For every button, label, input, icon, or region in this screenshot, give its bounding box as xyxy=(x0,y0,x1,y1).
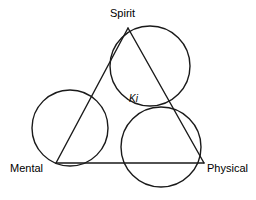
circle-spirit-mental xyxy=(32,90,108,166)
vertex-label-spirit: Spirit xyxy=(110,7,135,19)
edge-spirit-mental xyxy=(56,28,128,163)
vertex-label-mental: Mental xyxy=(10,162,43,174)
edge-spirit-physical xyxy=(128,28,204,163)
diagram-canvas: Spirit Mental Physical Ki xyxy=(0,0,256,200)
center-label-ki: Ki xyxy=(129,93,138,104)
vertex-label-physical: Physical xyxy=(207,162,248,174)
circle-mental-physical xyxy=(121,107,201,187)
